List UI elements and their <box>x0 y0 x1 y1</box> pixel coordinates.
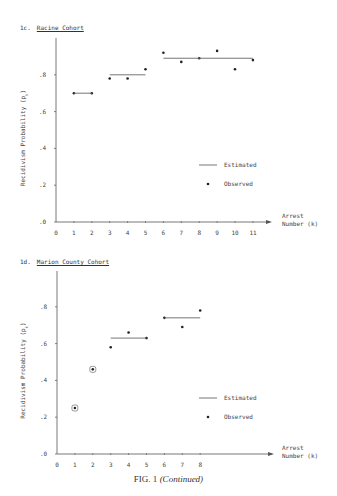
observed-point <box>181 326 184 329</box>
x-axis-label-line1: Arrest <box>282 444 304 451</box>
caption-prefix: FIG. 1 <box>134 474 158 484</box>
legend-observed-label: Observed <box>224 413 253 420</box>
y-tick-label: .8 <box>40 303 48 310</box>
x-tick-label: 3 <box>109 461 113 468</box>
x-tick-label: 0 <box>55 461 59 468</box>
y-tick-label: .0 <box>40 450 48 457</box>
observed-point <box>74 407 77 410</box>
observed-point <box>127 331 130 334</box>
y-tick-label: .6 <box>40 340 48 347</box>
y-tick-label: .4 <box>40 376 48 383</box>
observed-point <box>92 368 95 371</box>
x-tick-label: 7 <box>181 461 185 468</box>
caption-suffix: (Continued) <box>160 474 204 484</box>
chart-marion: .0.2.4.6.8012345678ArrestNumber (k)Recid… <box>0 0 337 496</box>
observed-point <box>109 346 112 349</box>
x-tick-label: 2 <box>91 461 95 468</box>
x-axis-arrow-icon <box>268 452 274 456</box>
x-tick-label: 5 <box>145 461 149 468</box>
x-tick-label: 8 <box>198 461 202 468</box>
figure-caption: FIG. 1 (Continued) <box>0 474 337 484</box>
y-tick-label: .2 <box>40 413 48 420</box>
x-tick-label: 6 <box>163 461 167 468</box>
x-tick-label: 1 <box>73 461 77 468</box>
x-tick-label: 4 <box>127 461 131 468</box>
legend-observed-marker <box>207 416 210 419</box>
y-axis-label: Recidivism Probability (pk) <box>19 322 29 418</box>
figure-page: 1c.Racine Cohort .0.2.4.6.80123456789101… <box>0 0 337 496</box>
legend-estimated-label: Estimated <box>224 394 257 401</box>
x-axis-label-line2: Number (k) <box>282 452 318 459</box>
observed-point <box>199 309 202 312</box>
